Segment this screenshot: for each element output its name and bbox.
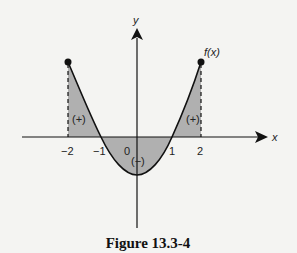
tick-label-neg2: −2	[61, 145, 74, 157]
tick-label-neg1: −1	[93, 145, 106, 157]
region-label-right: (+)	[186, 113, 200, 125]
figure-caption: Figure 13.3-4	[106, 235, 191, 251]
figure-canvas: y x f(x) −2 −1 0 1 2 (+) (−) (+) Figure …	[0, 0, 297, 253]
y-axis-label: y	[132, 14, 140, 26]
x-axis-label: x	[271, 131, 278, 143]
endpoint-left	[65, 59, 72, 66]
region-label-middle: (−)	[131, 155, 145, 167]
tick-label-0: 0	[124, 145, 130, 157]
region-label-left: (+)	[72, 113, 86, 125]
tick-label-1: 1	[169, 145, 175, 157]
endpoint-right	[198, 59, 205, 66]
function-label: f(x)	[204, 46, 220, 58]
tick-label-2: 2	[197, 145, 203, 157]
